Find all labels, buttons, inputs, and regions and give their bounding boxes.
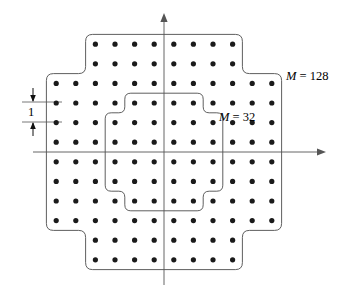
constellation-point xyxy=(230,100,235,105)
constellation-point xyxy=(152,179,157,184)
constellation-point xyxy=(152,120,157,125)
constellation-point xyxy=(112,42,117,47)
constellation-point xyxy=(73,120,78,125)
constellation-point xyxy=(250,218,255,223)
constellation-point xyxy=(230,179,235,184)
constellation-point xyxy=(132,198,137,203)
constellation-point xyxy=(152,198,157,203)
constellation-point xyxy=(152,257,157,262)
constellation-point xyxy=(152,218,157,223)
label-unit-spacing: 1 xyxy=(28,106,34,119)
constellation-point xyxy=(93,100,98,105)
constellation-point xyxy=(191,81,196,86)
constellation-point xyxy=(210,159,215,164)
constellation-point xyxy=(210,179,215,184)
constellation-point xyxy=(171,100,176,105)
label-m-128-equals: = xyxy=(300,69,307,83)
constellation-point xyxy=(230,257,235,262)
constellation-point xyxy=(210,100,215,105)
constellation-point xyxy=(112,179,117,184)
constellation-point xyxy=(210,198,215,203)
constellation-point xyxy=(132,238,137,243)
label-m-32-symbol: M xyxy=(219,110,229,124)
constellation-point xyxy=(54,120,59,125)
constellation-point xyxy=(112,100,117,105)
constellation-point xyxy=(73,140,78,145)
dimension-lower-arrow-head xyxy=(30,122,36,129)
constellation-point xyxy=(191,42,196,47)
constellation-point xyxy=(171,238,176,243)
constellation-point xyxy=(132,100,137,105)
constellation-point xyxy=(269,179,274,184)
constellation-point xyxy=(73,81,78,86)
constellation-point xyxy=(54,100,59,105)
constellation-point xyxy=(210,120,215,125)
constellation-point xyxy=(191,179,196,184)
constellation-point xyxy=(132,42,137,47)
constellation-point xyxy=(93,120,98,125)
constellation-point xyxy=(191,218,196,223)
constellation-point xyxy=(250,81,255,86)
constellation-point xyxy=(112,238,117,243)
constellation-point xyxy=(112,120,117,125)
constellation-point xyxy=(250,140,255,145)
constellation-point xyxy=(152,81,157,86)
constellation-point xyxy=(112,159,117,164)
constellation-point xyxy=(93,140,98,145)
constellation-point xyxy=(132,179,137,184)
constellation-point xyxy=(230,81,235,86)
constellation-point xyxy=(112,140,117,145)
constellation-point xyxy=(54,218,59,223)
constellation-point xyxy=(171,81,176,86)
constellation-figure: M = 128 M = 32 1 xyxy=(0,0,342,292)
constellation-point xyxy=(269,198,274,203)
constellation-point xyxy=(191,120,196,125)
constellation-point xyxy=(230,238,235,243)
label-m-128: M = 128 xyxy=(286,70,328,83)
constellation-point xyxy=(132,61,137,66)
constellation-point xyxy=(132,81,137,86)
constellation-point xyxy=(210,257,215,262)
constellation-point xyxy=(93,42,98,47)
constellation-point xyxy=(132,218,137,223)
constellation-point xyxy=(250,100,255,105)
constellation-point xyxy=(73,100,78,105)
horizontal-axis-arrow xyxy=(317,148,326,155)
constellation-point xyxy=(132,257,137,262)
constellation-point xyxy=(269,81,274,86)
constellation-point xyxy=(191,198,196,203)
constellation-point xyxy=(152,61,157,66)
constellation-point xyxy=(73,179,78,184)
constellation-point xyxy=(191,257,196,262)
constellation-point xyxy=(250,159,255,164)
constellation-point xyxy=(93,198,98,203)
constellation-point xyxy=(191,159,196,164)
constellation-point xyxy=(152,238,157,243)
label-m-128-value: 128 xyxy=(310,69,329,83)
constellation-point xyxy=(191,238,196,243)
constellation-point xyxy=(171,179,176,184)
constellation-point xyxy=(191,100,196,105)
constellation-point xyxy=(171,257,176,262)
constellation-point xyxy=(112,81,117,86)
constellation-point xyxy=(250,198,255,203)
constellation-point xyxy=(230,42,235,47)
constellation-point xyxy=(230,61,235,66)
constellation-point xyxy=(93,159,98,164)
constellation-point xyxy=(269,120,274,125)
constellation-point xyxy=(210,238,215,243)
constellation-point xyxy=(171,61,176,66)
constellation-point xyxy=(73,218,78,223)
constellation-point xyxy=(112,61,117,66)
constellation-point xyxy=(73,159,78,164)
constellation-point xyxy=(73,198,78,203)
constellation-point xyxy=(152,159,157,164)
constellation-point xyxy=(210,61,215,66)
constellation-point xyxy=(191,140,196,145)
constellation-point xyxy=(93,179,98,184)
constellation-point xyxy=(230,140,235,145)
constellation-point xyxy=(171,198,176,203)
constellation-svg xyxy=(0,0,342,292)
constellation-point xyxy=(112,257,117,262)
label-m-32-value: 32 xyxy=(243,110,256,124)
